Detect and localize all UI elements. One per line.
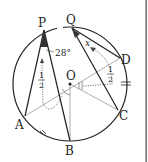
fraction-right-denominator: 2 bbox=[108, 75, 113, 84]
fraction-left-numerator: 1 bbox=[39, 71, 44, 80]
fraction-right-numerator: 1 bbox=[108, 65, 113, 74]
arrow-head-left bbox=[40, 58, 44, 63]
label-c: C bbox=[119, 109, 128, 123]
chord-q-d bbox=[72, 28, 120, 58]
fraction-left-denominator: 2 bbox=[39, 81, 44, 90]
right-border-bar bbox=[146, 0, 147, 162]
label-b: B bbox=[65, 144, 74, 158]
leader-28 bbox=[46, 50, 54, 52]
circle-gap bbox=[57, 24, 63, 29]
label-q: Q bbox=[66, 13, 76, 27]
angle-q-value: x bbox=[85, 38, 90, 48]
angle-p-value: 28° bbox=[55, 48, 71, 58]
dotted-arrow-left bbox=[42, 62, 62, 109]
arrow-head-right bbox=[90, 47, 96, 52]
label-d: D bbox=[121, 53, 131, 67]
label-a: A bbox=[14, 118, 24, 132]
angle-arc-o-left bbox=[62, 89, 70, 95]
circle-geometry-diagram: P Q D O C A B 28° x 1 2 1 2 bbox=[0, 0, 148, 162]
label-o: O bbox=[66, 69, 76, 83]
label-p: P bbox=[38, 16, 46, 30]
